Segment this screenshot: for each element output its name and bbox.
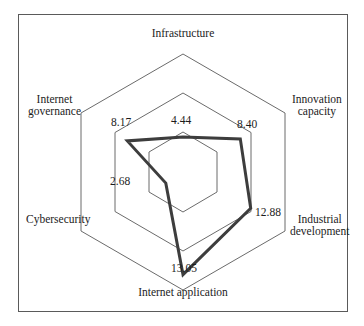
axis-label-infrastructure-text: Infrastructure — [152, 27, 215, 39]
axis-label-industrial-development: Industrial development — [290, 213, 349, 238]
axis-label-cybersecurity-text: Cybersecurity — [26, 213, 91, 225]
value-label-industrial-development: 12.88 — [255, 206, 281, 218]
axis-label-cybersecurity: Cybersecurity — [26, 213, 91, 225]
axis-label-internet-application: Internet application — [138, 286, 228, 298]
axis-label-innovation-capacity: Innovation capacity — [292, 93, 342, 118]
axis-label-internet-application-text: Internet application — [138, 286, 228, 298]
radar-chart-figure: Infrastructure Innovation capacity Indus… — [0, 0, 364, 326]
axis-label-internet-governance: Internet governance — [28, 93, 81, 118]
grid-hexagon-outer — [81, 54, 285, 290]
radar-plot-area — [0, 0, 364, 326]
axis-label-innovation-capacity-line1: Innovation — [292, 93, 342, 105]
grid-hexagon-inner — [149, 132, 217, 212]
axis-label-innovation-capacity-line2: capacity — [292, 105, 342, 117]
value-label-infrastructure: 4.44 — [171, 114, 191, 126]
axis-label-infrastructure: Infrastructure — [152, 27, 215, 39]
axis-label-internet-governance-line1: Internet — [28, 93, 81, 105]
axis-label-industrial-development-line1: Industrial — [290, 213, 349, 225]
axis-label-internet-governance-line2: governance — [28, 105, 81, 117]
value-label-internet-governance: 8.17 — [111, 116, 131, 128]
data-series-polygon — [127, 137, 250, 275]
value-label-internet-application: 13.05 — [171, 262, 197, 274]
value-label-cybersecurity: 2.68 — [110, 175, 130, 187]
value-label-innovation-capacity: 8.40 — [237, 118, 257, 130]
axis-label-industrial-development-line2: development — [290, 225, 349, 237]
